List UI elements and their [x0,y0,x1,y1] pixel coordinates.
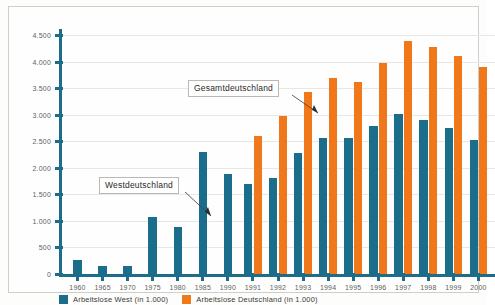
x-tick [327,273,330,281]
x-axis-label-1991: 1991 [245,284,261,291]
bar-west-1991 [244,184,252,274]
y-axis-label: 4.500 [32,32,51,39]
annotation-westdeutschland: Westdeutschland [99,177,179,194]
x-tick [126,273,129,281]
x-axis-label-1970: 1970 [119,284,135,291]
bar-west-1960 [73,260,82,274]
x-tick [352,273,355,281]
bar-west-2000 [470,140,478,274]
y-tick [55,220,63,223]
legend-item-germany: Arbeitslose Deutschland (in 1.000) [182,295,317,304]
y-axis-label: 1.500 [32,191,51,198]
x-tick [151,273,154,281]
x-tick [402,273,405,281]
y-tick [55,193,63,196]
y-axis-label: 4.000 [32,58,51,65]
x-tick [277,273,280,281]
bar-germany-1999 [454,56,462,274]
x-axis-label-2000: 2000 [470,284,486,291]
bar-west-1996 [369,126,377,275]
bar-west-1980 [174,227,183,274]
y-tick [55,34,63,37]
legend-swatch-germany-icon [182,295,191,304]
x-axis-label-1992: 1992 [270,284,286,291]
bar-germany-1998 [429,47,437,274]
y-axis-label: 1.000 [32,217,51,224]
annotation-westdeutschland-arrow-icon [185,192,245,232]
y-axis-label: 0 [47,271,51,278]
x-axis-label-1997: 1997 [395,284,411,291]
legend-item-west: Arbeitslose West (in 1.000) [59,295,168,304]
bar-germany-1996 [379,63,387,274]
bar-germany-1995 [354,82,362,274]
x-tick [427,273,430,281]
x-axis-label-1980: 1980 [170,284,186,291]
chart-frame: 05001.0001.5002.0002.5003.0003.5004.0004… [8,6,479,293]
y-axis-label: 2.000 [32,164,51,171]
x-tick [226,273,229,281]
y-axis [59,29,62,277]
y-tick [55,246,63,249]
legend-label-west: Arbeitslose West (in 1.000) [73,295,168,304]
x-tick [76,273,79,281]
bar-germany-2000 [479,67,487,274]
x-tick [176,273,179,281]
x-tick [201,273,204,281]
y-axis-label: 3.500 [32,85,51,92]
x-tick [377,273,380,281]
bar-west-1993 [294,153,302,274]
legend-swatch-west-icon [59,295,68,304]
annotation-gesamtdeutschland: Gesamtdeutschland [188,80,279,97]
bar-west-1999 [445,128,453,274]
x-axis-label-1998: 1998 [420,284,436,291]
bar-west-1997 [394,114,402,274]
x-axis-label-1996: 1996 [370,284,386,291]
x-axis-label-1960: 1960 [69,284,85,291]
x-axis-label-1993: 1993 [295,284,311,291]
x-axis-label-1994: 1994 [320,284,336,291]
x-tick [251,273,254,281]
annotation-gesamtdeutschland-arrow-icon [292,95,352,135]
chart-legend: Arbeitslose West (in 1.000) Arbeitslose … [59,295,318,304]
x-tick [452,273,455,281]
x-axis-label-1999: 1999 [445,284,461,291]
chart-inner: 05001.0001.5002.0002.5003.0003.5004.0004… [23,19,482,282]
legend-label-germany: Arbeitslose Deutschland (in 1.000) [196,295,317,304]
y-tick [55,87,63,90]
bar-germany-1997 [404,41,412,274]
y-axis-label: 500 [39,244,51,251]
x-axis-label-1965: 1965 [94,284,110,291]
y-tick [55,167,63,170]
y-tick [55,61,63,64]
x-tick [477,273,480,281]
x-axis-label-1990: 1990 [220,284,236,291]
x-tick [101,273,104,281]
plot-area: 05001.0001.5002.0002.5003.0003.5004.0004… [59,29,495,277]
bar-west-1992 [269,178,277,274]
gridline [59,35,495,36]
x-axis-label-1995: 1995 [345,284,361,291]
y-tick [55,273,63,276]
x-axis-label-1985: 1985 [195,284,211,291]
bar-germany-1991 [254,136,262,274]
bar-germany-1992 [279,116,287,274]
bar-west-1995 [344,138,352,274]
x-axis-label-1975: 1975 [145,284,161,291]
x-tick [302,273,305,281]
bar-west-1994 [319,138,327,274]
y-axis-label: 2.500 [32,138,51,145]
bar-west-1975 [148,217,157,274]
bar-west-1998 [419,120,427,274]
y-tick [55,140,63,143]
y-tick [55,114,63,117]
y-axis-label: 3.000 [32,111,51,118]
